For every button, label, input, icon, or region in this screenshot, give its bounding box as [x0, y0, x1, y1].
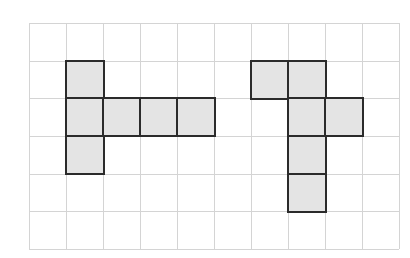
- left-net-cell: [65, 60, 105, 100]
- right-net-cell: [250, 60, 290, 100]
- left-net-cell: [65, 97, 105, 137]
- right-net-cell: [324, 97, 364, 137]
- left-net-cell: [176, 97, 216, 137]
- grid-line-vertical: [399, 23, 400, 249]
- grid-line-horizontal: [29, 211, 399, 212]
- square-grid: [29, 23, 399, 249]
- left-net-cell: [65, 135, 105, 175]
- right-net-cell: [287, 97, 327, 137]
- left-net-cell: [139, 97, 179, 137]
- right-net-cell: [287, 60, 327, 100]
- right-net-cell: [287, 135, 327, 175]
- right-net-cell: [287, 173, 327, 213]
- grid-line-horizontal: [29, 23, 399, 24]
- left-net-cell: [102, 97, 142, 137]
- grid-line-horizontal: [29, 249, 399, 250]
